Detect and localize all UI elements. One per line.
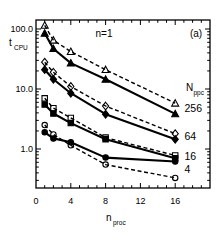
- series-label-64: 64: [185, 130, 197, 142]
- x-tick-label-0: 0: [33, 196, 38, 206]
- y-axis-label-subscript: CPU: [14, 44, 28, 51]
- panel-label: (a): [190, 28, 202, 39]
- x-axis-label-subscript: proc: [113, 219, 126, 227]
- annotation-n-equals-1: n=1: [96, 28, 113, 39]
- legend-title-subscript: ppc: [194, 89, 205, 97]
- y-tick-label-1: 1.0: [20, 144, 33, 154]
- series-label-256: 256: [185, 102, 203, 114]
- x-tick-label-16: 16: [170, 196, 180, 206]
- scaling-chart: 1.0 10.0 100.0 0 4 8 12 16 n=1 (a) t CPU…: [0, 0, 218, 242]
- figure-panel-a: 1.0 10.0 100.0 0 4 8 12 16 n=1 (a) t CPU…: [0, 0, 218, 242]
- y-axis-label: t: [9, 37, 12, 48]
- series-label-16: 16: [185, 150, 197, 162]
- x-axis-label: n: [106, 212, 112, 223]
- y-tick-label-100: 100.0: [10, 24, 33, 34]
- x-tick-label-4: 4: [68, 196, 73, 206]
- x-tick-label-8: 8: [103, 196, 108, 206]
- x-tick-label-12: 12: [135, 196, 145, 206]
- y-tick-label-10: 10.0: [15, 84, 33, 94]
- legend-title: N: [186, 82, 193, 93]
- series-label-4: 4: [185, 163, 191, 175]
